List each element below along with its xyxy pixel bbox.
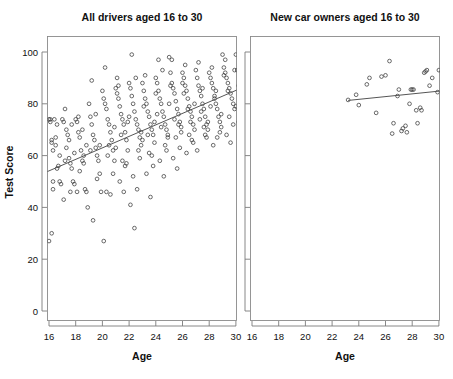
data-point [181,81,185,85]
data-point [210,66,214,70]
data-point [428,84,432,88]
data-point [365,83,369,87]
data-point [173,117,177,121]
y-tick-100: 100 [22,47,47,58]
data-point [437,68,441,72]
data-point [98,143,102,147]
data-point [405,130,409,134]
data-point [70,167,74,171]
y-tick-label-40: 40 [27,202,38,213]
data-point [175,167,179,171]
data-point [175,107,179,111]
data-point [357,103,361,107]
data-point [166,133,170,137]
data-point [183,63,187,67]
data-point [54,136,58,140]
data-point [211,143,215,147]
data-point [161,110,165,114]
data-point [62,198,66,202]
data-point [149,195,153,199]
data-point [214,89,218,93]
data-point [106,117,110,121]
x-tick-label-28: 28 [407,331,418,342]
x-tick-label-24: 24 [151,331,162,342]
data-point [121,117,125,121]
data-point [195,149,199,153]
data-point [70,123,74,127]
data-point [226,81,230,85]
panel-right-y-axis [245,52,250,311]
data-point [440,70,444,74]
data-point [145,172,149,176]
panel-left-x-axis-title: Age [132,350,152,362]
data-point [225,133,229,137]
data-point [122,190,126,194]
data-point [161,68,165,72]
data-point [214,102,218,106]
x-tick-label-28: 28 [204,331,215,342]
panel-left: All drivers aged 16 to 30 100 80 60 [3,11,244,362]
data-point [118,180,122,184]
data-point [182,92,186,96]
data-point [390,132,394,136]
data-point [113,159,117,163]
data-point [202,125,206,129]
data-point [167,102,171,106]
data-point [78,136,82,140]
data-point [127,81,131,85]
data-point [125,138,129,142]
data-point [215,136,219,140]
data-point [206,128,210,132]
data-point [102,97,106,101]
data-point [131,102,135,106]
x-tick-24: 24 [151,321,162,342]
data-point [110,138,114,142]
x-tick-label-26: 26 [380,331,391,342]
x-tick-30: 30 [434,321,445,342]
data-point [115,76,119,80]
data-point [133,226,137,230]
data-point [151,164,155,168]
data-point [215,107,219,111]
x-tick-18: 18 [273,321,284,342]
x-tick-label-18: 18 [70,331,81,342]
data-point [51,180,55,184]
data-point [397,88,401,92]
data-point [134,76,138,80]
data-point [153,141,157,145]
data-point [129,86,133,90]
panel-right-x-axis: 16 18 20 22 24 [247,321,444,362]
y-tick-label-0: 0 [33,306,38,317]
data-point [235,68,239,72]
data-point [139,143,143,147]
data-point [141,138,145,142]
x-tick-label-18: 18 [273,331,284,342]
panel-right-title: New car owners aged 16 to 30 [270,11,420,23]
x-tick-20: 20 [300,321,311,342]
panel-left-x-axis: 16 18 20 22 24 [44,321,241,362]
data-point [158,159,162,163]
data-point [230,97,234,101]
data-point [126,149,130,153]
data-point [103,102,107,106]
data-point [354,93,358,97]
panel-right-fit-line [348,90,447,100]
panel-left-fit-line [42,87,244,174]
data-point [142,105,146,109]
panel-left-y-axis-title: Test Score [3,145,15,198]
data-point [185,151,189,155]
data-point [218,120,222,124]
data-point [95,154,99,158]
y-tick-label-80: 80 [27,98,38,109]
x-tick-20: 20 [97,321,108,342]
data-point [117,97,121,101]
data-point [90,79,94,83]
data-point [50,231,54,235]
data-point [78,169,82,173]
data-point [133,110,137,114]
x-tick-28: 28 [407,321,418,342]
data-point [113,125,117,129]
data-point [55,123,59,127]
data-point [130,94,134,98]
data-point [189,120,193,124]
